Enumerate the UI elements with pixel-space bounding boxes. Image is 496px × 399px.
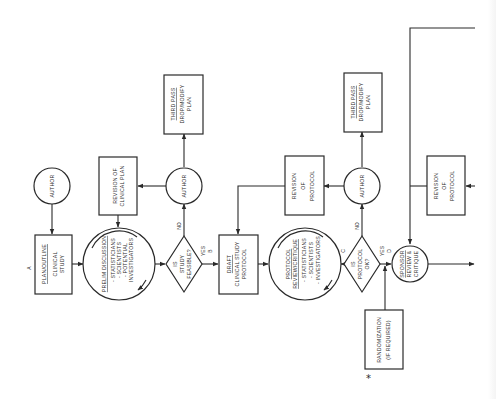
node-protocol-review: PROTOCOL REVIEW/CRITIQUE - STATISTICIANS… <box>269 228 341 300</box>
node-protocol-ok: IS PROTOCOL OK? <box>344 236 380 292</box>
node-sponsor-review: SPONSOR REVIEW & CRITIQUE <box>392 246 428 282</box>
draft-line1: CLINICAL STUDY <box>234 241 240 286</box>
node-revision-protocol-2: REVISION OF PROTOCOL <box>427 156 465 215</box>
prelim-line4: INVESTIGATORS <box>128 238 134 283</box>
node-randomization: RANDOMIZATION (IF REQUIRED) <box>365 310 403 369</box>
page-edge-shadow <box>488 0 496 399</box>
revision-protocol-2-line1: REVISION <box>433 173 439 199</box>
node-revision-protocol-1: REVISION OF PROTOCOL <box>285 156 324 215</box>
node-revision-clinical-plan: REVISION OF CLINICAL PLAN <box>99 157 137 215</box>
marker-c: C <box>340 249 346 253</box>
node-author-start: AUTHOR <box>34 168 70 204</box>
node-plan-outline: PLAN/OUTLINE CLINICAL STUDY <box>35 235 72 294</box>
author-start-label: AUTHOR <box>49 174 55 197</box>
flowchart-svg: A AUTHOR PLAN/OUTLINE CLINICAL STUDY REV… <box>0 0 496 399</box>
asterisk-marker: * <box>366 373 371 384</box>
sponsor-line3: CRITIQUE <box>413 250 419 277</box>
ok-no-label: NO <box>354 222 360 230</box>
feasible-yes-label: YES <box>200 245 206 256</box>
third-pass-1-line1: DROP/MODIFY <box>179 84 185 123</box>
node-draft-protocol: DRAFT CLINICAL STUDY PROTOCOL <box>219 235 258 294</box>
review-line2: - SCIENTISTS <box>308 242 314 278</box>
revision-protocol-1-line2: OF <box>300 182 306 190</box>
plan-outline-line2: STUDY <box>59 254 65 273</box>
node-third-pass-1: THIRD PASS DROP/MODIFY PLAN <box>164 75 203 134</box>
node-author-2: AUTHOR <box>344 168 380 204</box>
randomization-line1: RANDOMIZATION <box>376 317 382 363</box>
feasible-line3: FEASIBLE? <box>186 249 192 278</box>
ok-line3: OK? <box>364 259 370 270</box>
revision-protocol-2-line2: OF <box>441 182 447 190</box>
revision-protocol-1-line1: REVISION <box>291 173 297 199</box>
node-third-pass-2: THIRD PASS DROP/MODIFY PLAN <box>344 73 382 132</box>
third-pass-2-line1: DROP/MODIFY <box>358 82 364 121</box>
flowchart-canvas: A AUTHOR PLAN/OUTLINE CLINICAL STUDY REV… <box>0 0 496 399</box>
edge-revision-protocol-to-draft <box>238 186 285 234</box>
author-1-label: AUTHOR <box>181 174 187 197</box>
ok-line1: IS <box>350 261 356 267</box>
sponsor-line2: REVIEW & <box>406 250 412 277</box>
node-author-1: AUTHOR <box>166 168 202 204</box>
revision-clinical-line2: CLINICAL PLAN <box>119 166 125 207</box>
author-2-label: AUTHOR <box>359 174 365 197</box>
revision-clinical-line1: REVISION OF <box>112 168 118 204</box>
review-title-2: REVIEW/CRITIQUE <box>292 239 298 289</box>
revision-protocol-2-line3: PROTOCOL <box>449 171 455 202</box>
review-line3: - INVESTIGATORS <box>315 236 321 284</box>
third-pass-1-title: THIRD PASS <box>170 87 176 120</box>
feasible-line1: IS <box>172 261 178 267</box>
marker-b: B <box>207 249 213 253</box>
node-prelim-discussion: PRELIM DISCUSSION - STATISTICIANS - SCIE… <box>83 228 155 300</box>
third-pass-2-line2: PLAN <box>365 95 371 109</box>
revision-protocol-1-line3: PROTOCOL <box>309 171 315 202</box>
randomization-line2: (IF REQUIRED) <box>385 320 391 360</box>
start-marker-a: A <box>26 266 32 270</box>
marker-d: D <box>386 249 392 253</box>
sponsor-line1: SPONSOR <box>399 250 405 277</box>
ok-line2: PROTOCOL <box>357 249 363 280</box>
third-pass-2-title: THIRD PASS <box>350 85 356 118</box>
plan-outline-line1: CLINICAL <box>52 252 58 277</box>
node-study-feasible: IS STUDY FEASIBLE? <box>166 236 202 292</box>
third-pass-1-line2: PLAN <box>186 97 192 111</box>
draft-title: DRAFT <box>226 254 232 273</box>
prelim-title: PRELIM DISCUSSION <box>101 236 107 292</box>
review-line1: - STATISTICIANS <box>301 238 307 282</box>
plan-outline-title: PLAN/OUTLINE <box>41 244 47 284</box>
draft-line2: PROTOCOL <box>241 249 247 280</box>
feasible-no-label: NO <box>176 222 182 230</box>
ok-yes-label: YES <box>379 245 385 256</box>
review-title-1: PROTOCOL <box>285 249 291 280</box>
feasible-line2: STUDY <box>179 254 185 273</box>
